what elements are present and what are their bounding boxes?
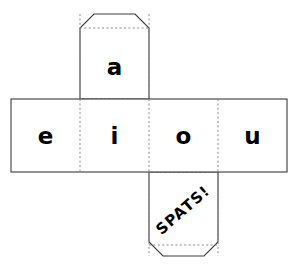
cube-net-canvas: a e i o u SPATS! xyxy=(0,0,299,269)
face-label-o: o xyxy=(164,123,204,149)
face-label-e: e xyxy=(26,123,66,149)
face-label-a: a xyxy=(95,54,135,80)
face-label-i: i xyxy=(95,123,135,149)
face-label-u: u xyxy=(233,123,273,149)
